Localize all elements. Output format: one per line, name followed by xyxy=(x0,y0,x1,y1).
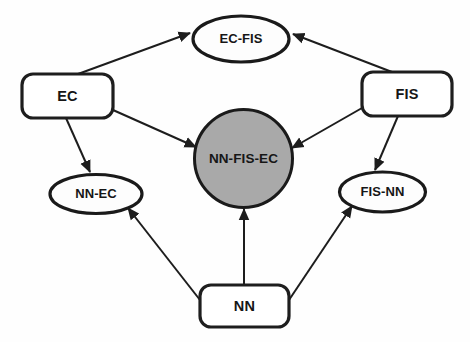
node-fis-shape[interactable] xyxy=(362,72,452,116)
node-nn-ec-shape[interactable] xyxy=(50,175,142,214)
edge-nn-to-nn-ec xyxy=(128,208,200,300)
node-fis-nn[interactable]: FIS-NN xyxy=(340,172,426,212)
edge-nn-to-fis-nn xyxy=(289,206,352,300)
node-nn-shape[interactable] xyxy=(200,285,289,327)
edge-fis-to-nn-fis-ec xyxy=(292,108,362,148)
node-nn-ec[interactable]: NN-EC xyxy=(50,175,142,214)
edge-ec-to-ec-fis xyxy=(78,33,190,74)
edge-ec-to-nn-ec xyxy=(66,118,90,172)
node-nn[interactable]: NN xyxy=(200,285,289,327)
node-ec-fis-shape[interactable] xyxy=(193,16,289,62)
node-fis-nn-shape[interactable] xyxy=(340,172,426,212)
node-ec-fis[interactable]: EC-FIS xyxy=(193,16,289,62)
node-ec-shape[interactable] xyxy=(22,74,113,118)
node-ec[interactable]: EC xyxy=(22,74,113,118)
diagram-svg: EC FIS NN EC-FIS NN-EC FIS-NN xyxy=(0,0,470,342)
edge-fis-to-fis-nn xyxy=(375,116,398,170)
edge-ec-to-nn-fis-ec xyxy=(113,110,196,147)
node-fis[interactable]: FIS xyxy=(362,72,452,116)
edge-fis-to-ec-fis xyxy=(293,34,392,72)
node-nn-fis-ec[interactable]: NN-FIS-EC xyxy=(195,110,293,208)
node-nn-fis-ec-shape[interactable] xyxy=(195,110,293,208)
diagram-canvas: EC FIS NN EC-FIS NN-EC FIS-NN xyxy=(0,0,470,342)
